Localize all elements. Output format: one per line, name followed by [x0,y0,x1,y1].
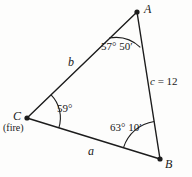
side-label-c: c = 12 [150,76,178,87]
vertex-label-b: B [165,158,172,170]
vertex-label-a: A [144,3,151,15]
triangle-drawing [0,0,192,177]
side-label-a: a [88,145,94,157]
side-label-b: b [68,56,74,68]
side-c-value: = 12 [158,75,178,87]
vertex-dot-a [134,9,139,14]
angle-label-b: 63° 10′ [110,122,142,133]
triangle-figure: A B C (fire) a b c = 12 57° 50′ 63° 10′ … [0,0,192,177]
side-c-variable: c [150,75,155,87]
angle-label-a: 57° 50′ [101,41,133,52]
vertex-c-sublabel-fire: (fire) [3,123,24,133]
side-b-line [27,12,137,118]
vertex-dot-b [157,156,162,161]
angle-label-c: 59° [57,103,72,114]
vertex-label-c: C [13,110,21,122]
vertex-dot-c [24,115,29,120]
